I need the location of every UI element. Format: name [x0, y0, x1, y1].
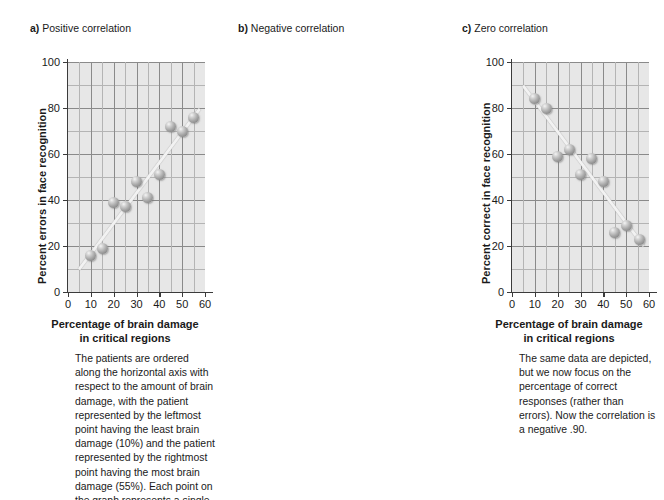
x-tick-a-1: [91, 292, 92, 297]
x-tick-label-a-4: 40: [153, 299, 165, 310]
panel-a-title: a) Positive correlation: [30, 22, 131, 35]
x-tick-a-3: [137, 292, 138, 297]
panel-c-title: c) Zero correlation: [462, 22, 548, 35]
x-tick-a-2: [114, 292, 115, 297]
y-tick-a-3: [63, 154, 68, 155]
x-tick-a-6: [205, 292, 206, 297]
x-tick-label-a-3: 30: [130, 299, 142, 310]
gridline-vertical: [102, 62, 103, 292]
x-tick-label-a-1: 10: [85, 299, 97, 310]
gridline-vertical: [125, 62, 126, 292]
data-point: [108, 197, 119, 208]
panel-a-title-text: Positive correlation: [42, 22, 131, 34]
x-tick-a-5: [182, 292, 183, 297]
gridline-vertical: [182, 62, 183, 292]
panel-zero-correlation: c) Zero correlation 02040608010064666870…: [450, 0, 664, 500]
y-tick-a-1: [63, 246, 68, 247]
data-point: [188, 112, 199, 123]
data-point: [97, 243, 108, 254]
y-tick-label-a-2: 40: [48, 195, 60, 206]
y-tick-label-a-1: 20: [48, 241, 60, 252]
x-tick-label-a-6: 60: [199, 299, 211, 310]
gridline-vertical: [114, 62, 115, 292]
data-point: [120, 201, 131, 212]
panel-negative-correlation: b) Negative correlation 0204060801000102…: [230, 0, 450, 500]
x-tick-label-a-5: 50: [176, 299, 188, 310]
chart-a: 0204060801000102030405060: [68, 62, 205, 292]
panel-positive-correlation: a) Positive correlation 0204060801000102…: [0, 0, 230, 500]
x-tick-label-a-2: 20: [108, 299, 120, 310]
data-point: [85, 250, 96, 261]
y-tick-label-a-0: 0: [54, 287, 60, 298]
y-tick-a-5: [63, 62, 68, 63]
x-axis-title-a: Percentage of brain damagein critical re…: [20, 317, 230, 345]
y-tick-a-4: [63, 108, 68, 109]
gridline-vertical: [79, 62, 80, 292]
panel-b-title: b) Negative correlation: [238, 22, 344, 35]
data-point: [154, 169, 165, 180]
panel-b-title-text: Negative correlation: [251, 22, 344, 34]
x-axis-line-a: [64, 292, 213, 293]
x-tick-a-0: [68, 292, 69, 297]
panel-c-tag: c): [462, 22, 471, 34]
y-tick-label-a-4: 80: [48, 103, 60, 114]
y-tick-a-2: [63, 200, 68, 201]
panel-c-title-text: Zero correlation: [474, 22, 548, 34]
y-axis-line-a: [67, 59, 68, 292]
caption-a: The patients are ordered along the horiz…: [75, 352, 215, 500]
y-tick-label-a-5: 100: [42, 57, 60, 68]
panel-a-tag: a): [30, 22, 39, 34]
panel-b-tag: b): [238, 22, 248, 34]
y-tick-label-a-3: 60: [48, 149, 60, 160]
gridline-vertical: [171, 62, 172, 292]
x-tick-label-a-0: 0: [65, 299, 71, 310]
x-tick-a-4: [159, 292, 160, 297]
y-axis-title-a: Percent errors in face recognition: [36, 108, 48, 284]
data-point: [177, 126, 188, 137]
gridline-vertical: [194, 62, 195, 292]
